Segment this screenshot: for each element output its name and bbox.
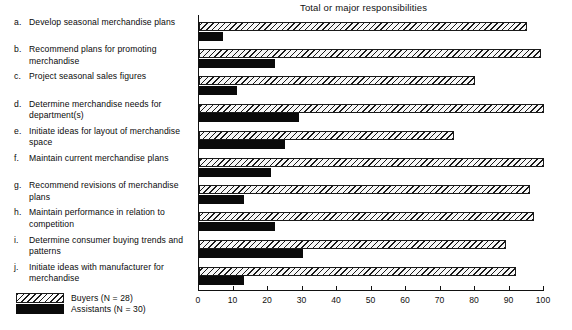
bar-assistants [199,168,271,177]
x-axis-tick [543,286,544,291]
category-label-text: Initiate ideas with manufacturer for mer… [29,262,196,285]
category-label-text: Project seasonal sales figures [29,71,196,82]
category-label-key: c. [0,71,29,82]
chart-title: Total or major responsibilities [300,2,427,13]
bar-buyers [199,158,544,167]
bar-assistants [199,195,244,204]
legend-swatch-buyers-icon [16,293,64,303]
category-label-text: Recommend plans for promoting merchandis… [29,44,196,67]
category-label-key: g. [0,180,29,191]
bar-buyers [199,22,527,31]
x-axis-tick-label: 90 [504,295,514,305]
category-label-text: Develop seasonal merchandise plans [29,17,196,28]
category-label-text: Recommend revisions of merchandise plans [29,180,196,203]
x-axis-tick-label: 0 [196,295,201,305]
x-axis-tick-label: 100 [536,295,550,305]
x-axis-tick-label: 30 [297,295,307,305]
x-axis-tick-label: 80 [469,295,479,305]
bar-group [199,15,546,290]
category-label-text: Maintain performance in relation to comp… [29,207,196,230]
x-axis-tick [302,286,303,291]
x-axis: 0102030405060708090100 [198,290,546,316]
bar-assistants [199,276,244,285]
chart-legend: Buyers (N = 28) Assistants (N = 30) [16,292,196,314]
bar-assistants [199,222,275,231]
category-label-column: a.Develop seasonal merchandise plansb.Re… [0,18,196,288]
x-axis-tick [233,286,234,291]
category-label: j.Initiate ideas with manufacturer for m… [0,262,196,285]
bar-buyers [199,76,475,85]
x-axis-tick [440,286,441,291]
bar-buyers [199,185,530,194]
x-axis-tick [267,286,268,291]
plot-area [198,15,546,290]
x-axis-tick-label: 70 [435,295,445,305]
x-axis-tick [336,286,337,291]
bar-assistants [199,86,237,95]
category-label-text: Initiate ideas for layout of merchandise… [29,126,196,149]
bar-buyers [199,267,516,276]
bar-buyers [199,104,544,113]
category-label-key: i. [0,235,29,246]
category-label-key: e. [0,126,29,137]
bar-assistants [199,32,223,41]
legend-swatch-assistants-icon [16,304,64,314]
category-label-key: b. [0,44,29,55]
category-label-key: a. [0,17,29,28]
bar-assistants [199,113,299,122]
category-label-text: Maintain current merchandise plans [29,153,196,164]
category-label: f.Maintain current merchandise plans [0,153,196,164]
legend-label-assistants: Assistants (N = 30) [64,304,146,314]
category-label: g.Recommend revisions of merchandise pla… [0,180,196,203]
x-axis-tick [509,286,510,291]
category-label-key: f. [0,153,29,164]
category-label: e.Initiate ideas for layout of merchandi… [0,126,196,149]
category-label-key: h. [0,207,29,218]
category-label-key: j. [0,262,29,273]
category-label: c.Project seasonal sales figures [0,71,196,82]
bar-buyers [199,49,541,58]
category-label: i.Determine consumer buying trends and p… [0,235,196,258]
x-axis-tick-label: 50 [366,295,376,305]
x-axis-tick-label: 10 [228,295,238,305]
category-label: a.Develop seasonal merchandise plans [0,17,196,28]
category-label-text: Determine consumer buying trends and pat… [29,235,196,258]
legend-item-buyers: Buyers (N = 28) [16,292,196,303]
x-axis-tick [405,286,406,291]
bar-assistants [199,140,285,149]
category-label: b.Recommend plans for promoting merchand… [0,44,196,67]
category-label: d.Determine merchandise needs for depart… [0,99,196,122]
x-axis-tick [474,286,475,291]
category-label-text: Determine merchandise needs for departme… [29,99,196,122]
x-axis-tick-label: 40 [331,295,341,305]
x-axis-tick [198,286,199,291]
bar-assistants [199,249,303,258]
category-label-key: d. [0,99,29,110]
x-axis-tick-label: 60 [400,295,410,305]
bar-buyers [199,131,454,140]
bar-assistants [199,59,275,68]
x-axis-tick [371,286,372,291]
chart-figure: Total or major responsibilities a.Develo… [0,0,572,330]
x-axis-tick-label: 20 [262,295,272,305]
bar-buyers [199,212,534,221]
legend-label-buyers: Buyers (N = 28) [64,293,133,303]
category-label: h.Maintain performance in relation to co… [0,207,196,230]
bar-buyers [199,240,506,249]
legend-item-assistants: Assistants (N = 30) [16,303,196,314]
